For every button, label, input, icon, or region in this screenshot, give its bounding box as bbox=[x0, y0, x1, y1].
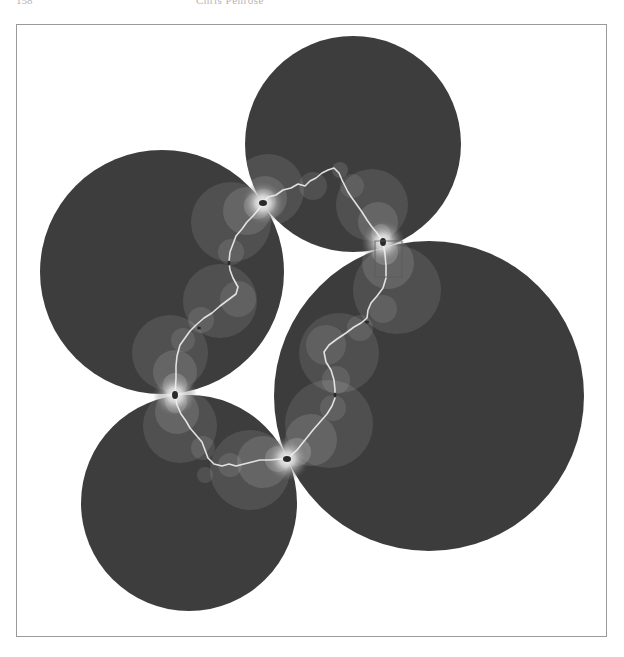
limit-set-figure bbox=[0, 0, 624, 657]
